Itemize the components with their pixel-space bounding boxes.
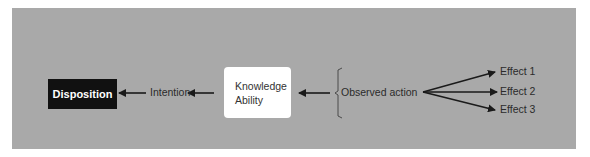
node-effect-1: Effect 1 <box>500 65 535 77</box>
node-observed-action: Observed action <box>341 86 417 98</box>
node-knowledge-ability: Knowledge Ability <box>224 67 291 118</box>
node-effect-3: Effect 3 <box>500 103 535 115</box>
node-effect-2: Effect 2 <box>500 85 535 97</box>
knowledge-label: Knowledge <box>235 79 287 93</box>
arrow-to-effect-1 <box>423 72 495 92</box>
arrow-to-effect-3 <box>423 92 495 110</box>
disposition-label: Disposition <box>53 88 113 100</box>
ability-label: Ability <box>235 93 263 107</box>
node-disposition: Disposition <box>48 79 117 109</box>
node-intention: Intention <box>150 86 190 98</box>
